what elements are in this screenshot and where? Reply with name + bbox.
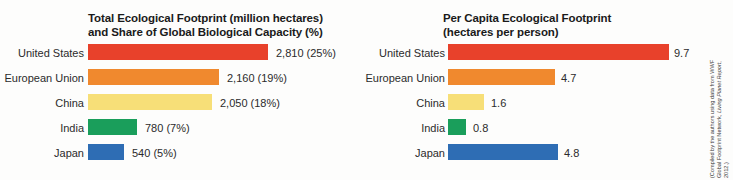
bar-european-union [448, 69, 555, 85]
chart-total-ecological-footprint: Total Ecological Footprint (million hect… [0, 0, 366, 180]
bar-value-label: 4.7 [561, 65, 576, 90]
bar-value-label: 540 (5%) [132, 140, 177, 165]
chart-per-capita-ecological-footprint: Per Capita Ecological Footprint (hectare… [366, 0, 691, 180]
bar-row: Japan 540 (5%) [0, 140, 366, 165]
bar-row: United States 9.7 [366, 40, 691, 65]
source-note-line2-pre: Global Footprint Network, [716, 113, 722, 178]
source-note: (Compiled by the authors using data from… [709, 2, 731, 178]
bar-india [448, 119, 466, 135]
category-label: European Union [0, 65, 84, 90]
bar-value-label: 9.7 [674, 40, 689, 65]
bar-china [448, 94, 484, 110]
bar-row: India 780 (7%) [0, 115, 366, 140]
bar-row: European Union 2,160 (19%) [0, 65, 366, 90]
bar-rows-right: United States 9.7 European Union 4.7 Chi… [366, 40, 691, 165]
bar-row: China 2,050 (18%) [0, 90, 366, 115]
bar-united-states [88, 44, 268, 60]
category-label: Japan [0, 140, 84, 165]
category-label: China [0, 90, 84, 115]
ecological-footprint-figure: Total Ecological Footprint (million hect… [0, 0, 733, 180]
bar-value-label: 2,160 (19%) [227, 65, 287, 90]
category-label: European Union [366, 65, 445, 90]
bar-india [88, 119, 137, 135]
bar-value-label: 2,810 (25%) [276, 40, 336, 65]
bar-european-union [88, 69, 219, 85]
chart-title-left: Total Ecological Footprint (million hect… [88, 11, 364, 39]
bar-united-states [448, 44, 669, 60]
bar-row: European Union 4.7 [366, 65, 691, 90]
bar-value-label: 1.6 [491, 90, 506, 115]
bar-rows-left: United States 2,810 (25%) European Union… [0, 40, 366, 165]
category-label: India [0, 115, 84, 140]
source-note-line2-post: , [716, 61, 722, 63]
bar-value-label: 780 (7%) [145, 115, 190, 140]
category-label: United States [0, 40, 84, 65]
bar-value-label: 0.8 [473, 115, 488, 140]
category-label: United States [366, 40, 445, 65]
bar-china [88, 94, 212, 110]
bar-row: United States 2,810 (25%) [0, 40, 366, 65]
bar-row: China 1.6 [366, 90, 691, 115]
bar-japan [448, 144, 558, 160]
category-label: China [366, 90, 445, 115]
bar-row: Japan 4.8 [366, 140, 691, 165]
bar-value-label: 4.8 [564, 140, 579, 165]
category-label: Japan [366, 140, 445, 165]
bar-value-label: 2,050 (18%) [220, 90, 280, 115]
category-label: India [366, 115, 445, 140]
source-note-publication: Living Planet Report [716, 63, 722, 113]
source-note-line3: 2012.) [723, 162, 729, 178]
bar-row: India 0.8 [366, 115, 691, 140]
bar-japan [88, 144, 124, 160]
chart-title-right: Per Capita Ecological Footprint (hectare… [443, 11, 693, 39]
source-note-line1: (Compiled by the authors using data from… [709, 60, 715, 178]
